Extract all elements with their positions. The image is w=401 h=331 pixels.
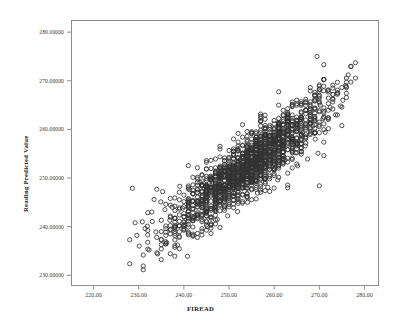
y-tick-label: 250.00000 [39, 175, 64, 181]
x-tick-label: 250.00 [221, 292, 238, 298]
y-axis-title: Reading Predicted Value [22, 136, 29, 212]
x-tick-label: 220.00 [85, 292, 102, 298]
y-tick-label: 230.00000 [39, 272, 64, 278]
x-tick-label: 280.00 [356, 292, 373, 298]
x-axis-title: FIREAD [0, 305, 401, 312]
y-tick-label: 270.00000 [39, 78, 64, 84]
x-tick-label: 270.00 [311, 292, 328, 298]
plot-canvas [0, 0, 401, 331]
x-tick-label: 230.00 [130, 292, 147, 298]
plot-frame [72, 21, 379, 286]
x-tick-label: 260.00 [266, 292, 283, 298]
x-tick-label: 240.00 [176, 292, 193, 298]
y-tick-label: 240.00000 [39, 224, 64, 230]
scatter-plot-figure: 230.00000240.00000250.00000260.00000270.… [0, 0, 401, 331]
y-tick-label: 260.00000 [39, 126, 64, 132]
y-tick-label: 280.00000 [39, 29, 64, 35]
